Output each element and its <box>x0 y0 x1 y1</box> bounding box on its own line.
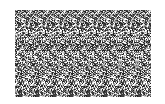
stereogram-noise-image <box>15 10 151 97</box>
